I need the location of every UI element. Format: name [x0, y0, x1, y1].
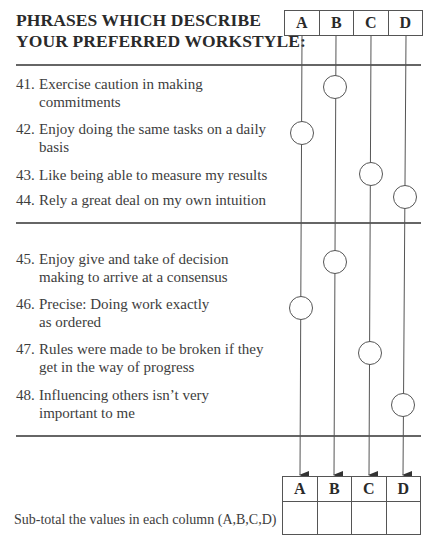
column-header-d: D — [389, 11, 423, 35]
page-title: PHRASES WHICH DESCRIBE YOUR PREFERRED WO… — [16, 10, 286, 52]
subtotal-header-a: A — [283, 477, 318, 501]
subtotal-input-d[interactable] — [387, 502, 421, 534]
subtotal-input-c[interactable] — [352, 502, 387, 534]
list-item-43: 43. Like being able to measure my result… — [16, 166, 271, 184]
item-text: Exercise caution in making commitments — [39, 75, 229, 111]
subtotal-label: Sub-total the values in each column (A,B… — [14, 511, 276, 529]
column-header-a: A — [285, 11, 320, 35]
subtotal-header-c: C — [352, 477, 387, 501]
item-text: Rely a great deal on my own intuition — [39, 191, 271, 209]
answer-bubble-44-d[interactable] — [393, 185, 417, 209]
answer-bubble-48-d[interactable] — [391, 393, 415, 417]
answer-bubble-47-c[interactable] — [358, 341, 382, 365]
item-text: Enjoy give and take of decision making t… — [39, 250, 239, 286]
title-line-2: YOUR PREFERRED WORKSTYLE: — [16, 31, 286, 52]
column-header-b: B — [320, 11, 355, 35]
subtotal-header-b: B — [318, 477, 353, 501]
answer-bubble-43-c[interactable] — [359, 162, 383, 186]
subtotal-table: A B C D — [282, 476, 421, 535]
answer-bubble-41-b[interactable] — [323, 75, 347, 99]
item-number: 46. — [16, 295, 39, 331]
item-number: 43. — [16, 166, 39, 184]
item-text: Rules were made to be broken if they get… — [39, 340, 271, 376]
item-text: Influencing others isn’t very important … — [39, 386, 224, 422]
list-item-42: 42. Enjoy doing the same tasks on a dail… — [16, 120, 271, 156]
item-number: 47. — [16, 340, 39, 376]
subtotal-header-d: D — [387, 477, 421, 501]
item-number: 42. — [16, 120, 39, 156]
answer-bubble-46-a[interactable] — [289, 296, 313, 320]
item-text: Like being able to measure my results — [39, 166, 271, 184]
list-item-46: 46. Precise: Doing work exactly as order… — [16, 295, 271, 331]
column-line-c — [369, 36, 371, 475]
item-text: Precise: Doing work exactly as ordered — [39, 295, 224, 331]
subtotal-input-a[interactable] — [283, 502, 318, 534]
item-text: Enjoy doing the same tasks on a daily ba… — [39, 120, 271, 156]
item-number: 44. — [16, 191, 39, 209]
subtotal-input-b[interactable] — [318, 502, 353, 534]
list-item-44: 44. Rely a great deal on my own intuitio… — [16, 191, 271, 209]
column-header-c: C — [354, 11, 389, 35]
answer-bubble-42-a[interactable] — [290, 121, 314, 145]
item-number: 45. — [16, 250, 39, 286]
list-item-48: 48. Influencing others isn’t very import… — [16, 386, 271, 422]
column-header-top: A B C D — [284, 10, 423, 36]
column-line-a — [300, 36, 302, 475]
answer-bubble-45-b[interactable] — [323, 250, 347, 274]
item-number: 48. — [16, 386, 39, 422]
subtotal-header-row: A B C D — [283, 477, 420, 502]
list-item-45: 45. Enjoy give and take of decision maki… — [16, 250, 271, 286]
title-line-1: PHRASES WHICH DESCRIBE — [16, 10, 286, 31]
list-item-41: 41. Exercise caution in making commitmen… — [16, 75, 271, 111]
item-number: 41. — [16, 75, 39, 111]
subtotal-values-row — [283, 502, 420, 534]
list-item-47: 47. Rules were made to be broken if they… — [16, 340, 271, 376]
